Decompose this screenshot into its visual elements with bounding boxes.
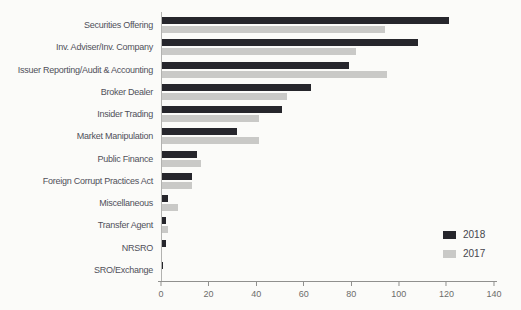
bar-2017	[161, 182, 192, 189]
category-row: Transfer Agent	[0, 214, 498, 236]
x-tick-mark	[398, 282, 399, 286]
x-tick-label: 100	[391, 289, 406, 299]
bars-cell	[161, 39, 494, 55]
legend-label-2018: 2018	[463, 229, 485, 240]
bar-chart-figure: Securities OfferingInv. Adviser/Inv. Com…	[0, 0, 521, 310]
category-label: Transfer Agent	[0, 220, 161, 230]
legend: 2018 2017	[443, 229, 485, 259]
bar-2017	[161, 48, 356, 55]
category-row: SRO/Exchange	[0, 259, 498, 281]
bar-2017	[161, 160, 201, 167]
x-tick: 100	[391, 282, 406, 299]
bar-2018	[161, 173, 192, 180]
legend-entry-2017: 2017	[443, 248, 485, 259]
legend-swatch-2018	[443, 231, 456, 239]
legend-entry-2018: 2018	[443, 229, 485, 240]
x-tick-label: 60	[299, 289, 309, 299]
x-tick: 0	[158, 282, 163, 299]
category-label: NRSRO	[0, 243, 161, 253]
x-tick: 140	[486, 282, 501, 299]
x-axis-ticks: 020406080100120140	[161, 282, 494, 302]
category-label: Public Finance	[0, 154, 161, 164]
bar-2018	[161, 39, 418, 46]
y-axis-line	[161, 12, 162, 281]
category-row: Public Finance	[0, 148, 498, 170]
x-tick: 20	[204, 282, 214, 299]
bar-2017	[161, 115, 259, 122]
bars-cell	[161, 62, 494, 78]
x-tick-label: 80	[346, 289, 356, 299]
x-tick-mark	[256, 282, 257, 286]
x-tick-mark	[351, 282, 352, 286]
bar-2017	[161, 137, 259, 144]
bar-2018	[161, 151, 197, 158]
x-tick: 60	[299, 282, 309, 299]
x-tick-label: 40	[251, 289, 261, 299]
bar-2017	[161, 26, 385, 33]
category-row: Inv. Adviser/Inv. Company	[0, 36, 498, 58]
category-row: Broker Dealer	[0, 81, 498, 103]
category-row: NRSRO	[0, 237, 498, 259]
category-label: Inv. Adviser/Inv. Company	[0, 42, 161, 52]
category-label: Market Manipulation	[0, 131, 161, 141]
bars-cell	[161, 151, 494, 167]
x-tick-label: 20	[204, 289, 214, 299]
bar-2018	[161, 17, 449, 24]
bars-cell	[161, 84, 494, 100]
bars-cell	[161, 173, 494, 189]
x-tick: 120	[439, 282, 454, 299]
bar-2018	[161, 195, 168, 202]
x-tick-mark	[208, 282, 209, 286]
legend-label-2017: 2017	[463, 248, 485, 259]
category-label: Issuer Reporting/Audit & Accounting	[0, 65, 161, 75]
category-label: SRO/Exchange	[0, 265, 161, 275]
chart-area: Securities OfferingInv. Adviser/Inv. Com…	[0, 14, 521, 310]
category-row: Issuer Reporting/Audit & Accounting	[0, 59, 498, 81]
x-tick-label: 140	[486, 289, 501, 299]
category-label: Foreign Corrupt Practices Act	[0, 176, 161, 186]
bar-2017	[161, 226, 168, 233]
category-label: Insider Trading	[0, 109, 161, 119]
x-tick: 80	[346, 282, 356, 299]
category-row: Insider Trading	[0, 103, 498, 125]
category-label: Miscellaneous	[0, 198, 161, 208]
x-tick-mark	[494, 282, 495, 286]
x-tick-label: 0	[158, 289, 163, 299]
bar-2017	[161, 71, 387, 78]
x-tick-mark	[446, 282, 447, 286]
bar-2017	[161, 204, 178, 211]
bar-2018	[161, 84, 311, 91]
category-row: Foreign Corrupt Practices Act	[0, 170, 498, 192]
x-tick-mark	[303, 282, 304, 286]
legend-swatch-2017	[443, 250, 456, 258]
bars-cell	[161, 17, 494, 33]
category-label: Broker Dealer	[0, 87, 161, 97]
x-tick-label: 120	[439, 289, 454, 299]
category-row: Market Manipulation	[0, 125, 498, 147]
bar-2018	[161, 128, 237, 135]
bar-2018	[161, 62, 349, 69]
bars-cell	[161, 195, 494, 211]
chart-rows: Securities OfferingInv. Adviser/Inv. Com…	[0, 14, 498, 281]
category-label: Securities Offering	[0, 20, 161, 30]
category-row: Securities Offering	[0, 14, 498, 36]
x-tick-mark	[160, 282, 161, 286]
bars-cell	[161, 106, 494, 122]
bar-2018	[161, 106, 282, 113]
x-tick: 40	[251, 282, 261, 299]
category-row: Miscellaneous	[0, 192, 498, 214]
bars-cell	[161, 128, 494, 144]
bars-cell	[161, 262, 494, 278]
bar-2017	[161, 93, 287, 100]
